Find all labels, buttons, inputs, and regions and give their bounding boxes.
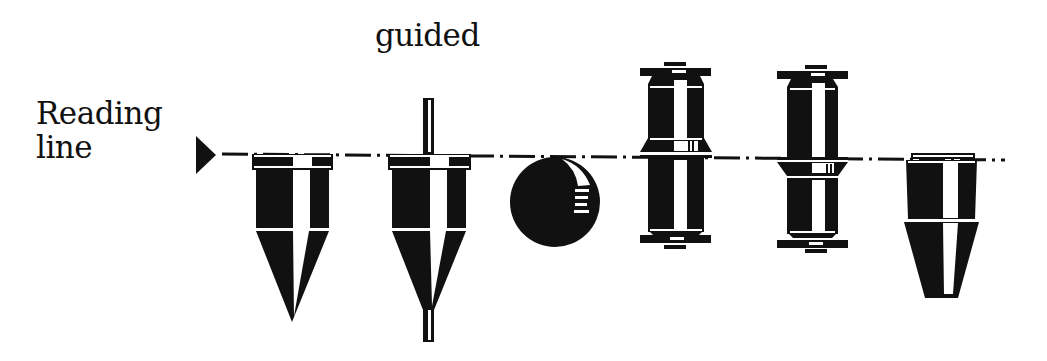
float-shapes-diagram [0,0,1047,361]
reading-line [222,154,1005,160]
spool-float-collar-above [640,62,712,249]
spool-float-collar-below [777,65,848,253]
cone-float [252,154,333,322]
guided-cone-float [388,98,471,342]
sphere-float [510,157,600,247]
truncated-cone-float [904,153,979,298]
reading-line-arrow-icon [196,136,216,174]
